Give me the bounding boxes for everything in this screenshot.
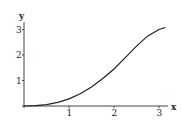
data-line bbox=[24, 28, 165, 107]
x-tick-label: 3 bbox=[157, 108, 163, 118]
x-tick-label: 2 bbox=[112, 108, 118, 118]
y-tick-label: 3 bbox=[16, 25, 22, 35]
line-chart: 123123 x y bbox=[0, 0, 182, 120]
y-tick-label: 2 bbox=[16, 50, 22, 60]
x-tick-label: 1 bbox=[67, 108, 73, 118]
y-tick-label: 1 bbox=[16, 76, 22, 86]
y-axis-label: y bbox=[18, 11, 25, 21]
axes bbox=[22, 22, 168, 108]
x-axis-label: x bbox=[171, 102, 177, 112]
ticks: 123123 bbox=[16, 25, 163, 119]
